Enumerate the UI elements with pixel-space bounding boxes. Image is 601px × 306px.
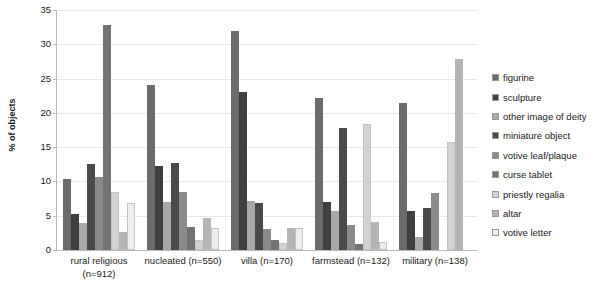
x-axis-line — [56, 250, 477, 251]
bar — [103, 25, 111, 250]
legend-item[interactable]: other image of deity — [492, 107, 600, 126]
bar — [95, 177, 103, 250]
bar — [87, 164, 95, 250]
bar — [203, 218, 211, 250]
legend-item-label: priestly regalia — [503, 189, 564, 200]
bar-cluster — [57, 10, 141, 250]
bar-cluster — [309, 10, 393, 250]
legend-swatch-curse-tablet — [492, 171, 499, 178]
bar — [287, 228, 295, 250]
legend-swatch-other-image-of-deity — [492, 113, 499, 120]
bar — [379, 242, 387, 250]
x-axis-category-label: military (n=138) — [393, 254, 477, 267]
bar — [431, 193, 439, 250]
bar — [331, 211, 339, 250]
bar — [363, 124, 371, 250]
legend-item[interactable]: votive leaf/plaque — [492, 146, 600, 165]
bar — [271, 240, 279, 250]
bar — [407, 211, 415, 250]
bar — [71, 214, 79, 250]
bar — [455, 59, 463, 250]
bar — [255, 203, 263, 250]
bar — [415, 237, 423, 250]
y-axis-tick-label: 20 — [25, 107, 51, 118]
bar — [231, 31, 239, 250]
legend-item[interactable]: miniature object — [492, 126, 600, 145]
x-axis-category-label: farmstead (n=132) — [309, 254, 393, 267]
x-axis-category-label: nucleated (n=550) — [141, 254, 225, 267]
legend-item-label: votive leaf/plaque — [503, 150, 577, 161]
legend-swatch-altar — [492, 210, 499, 217]
y-axis-tick-label: 30 — [25, 38, 51, 49]
bar — [163, 202, 171, 250]
bar — [211, 228, 219, 250]
bar — [155, 166, 163, 250]
bar — [63, 179, 71, 250]
legend-item-label: altar — [503, 208, 521, 219]
y-axis-tick-label: 35 — [25, 4, 51, 15]
legend-swatch-priestly-regalia — [492, 191, 499, 198]
legend-swatch-sculpture — [492, 94, 499, 101]
bar — [147, 85, 155, 250]
legend-item-label: votive letter — [503, 227, 552, 238]
legend-swatch-miniature-object — [492, 132, 499, 139]
bar — [247, 201, 255, 250]
bar — [187, 227, 195, 250]
plot-area — [57, 10, 477, 250]
bar — [195, 240, 203, 250]
y-axis-tick-label: 25 — [25, 73, 51, 84]
y-axis-title: % of objects — [2, 0, 20, 250]
y-axis-title-text: % of objects — [6, 98, 16, 151]
bar — [79, 223, 87, 250]
legend-item[interactable]: votive letter — [492, 223, 600, 242]
bar — [239, 92, 247, 250]
bar — [339, 128, 347, 250]
bar-cluster — [225, 10, 309, 250]
bar — [447, 142, 455, 250]
y-axis-tick-label: 5 — [25, 210, 51, 221]
bar — [295, 228, 303, 250]
y-axis-tick-label: 15 — [25, 141, 51, 152]
legend-item-label: other image of deity — [503, 111, 586, 122]
x-axis-category-label: rural religious(n=912) — [57, 254, 141, 280]
bar — [371, 222, 379, 250]
legend-item[interactable]: curse tablet — [492, 165, 600, 184]
y-axis-tick-labels: 05101520253035 — [20, 10, 51, 251]
legend: figurinesculptureother image of deitymin… — [492, 68, 600, 243]
bar — [323, 202, 331, 250]
bar — [127, 203, 135, 250]
bar — [111, 192, 119, 250]
legend-item-label: curse tablet — [503, 169, 552, 180]
legend-swatch-figurine — [492, 74, 499, 81]
bar — [355, 244, 363, 250]
legend-item-label: sculpture — [503, 92, 542, 103]
legend-item[interactable]: altar — [492, 204, 600, 223]
bar — [399, 103, 407, 250]
legend-item[interactable]: sculpture — [492, 87, 600, 106]
bar — [171, 163, 179, 250]
bar-chart: % of objects 05101520253035 rural religi… — [0, 0, 601, 306]
legend-item[interactable]: priestly regalia — [492, 184, 600, 203]
legend-item[interactable]: figurine — [492, 68, 600, 87]
legend-swatch-votive-letter — [492, 229, 499, 236]
legend-item-label: figurine — [503, 72, 534, 83]
bar — [119, 232, 127, 250]
bar — [279, 243, 287, 250]
x-axis-category-labels: rural religious(n=912)nucleated (n=550)v… — [57, 254, 477, 302]
bar-cluster — [393, 10, 477, 250]
bar — [347, 225, 355, 250]
legend-item-label: miniature object — [503, 130, 570, 141]
y-axis-tick-label: 0 — [25, 244, 51, 255]
bar-cluster — [141, 10, 225, 250]
x-axis-category-label: villa (n=170) — [225, 254, 309, 267]
bar — [179, 192, 187, 250]
legend-swatch-votive-leaf-plaque — [492, 152, 499, 159]
y-axis-tick-label: 10 — [25, 175, 51, 186]
bar — [263, 229, 271, 250]
bar — [315, 98, 323, 250]
bar — [423, 208, 431, 251]
